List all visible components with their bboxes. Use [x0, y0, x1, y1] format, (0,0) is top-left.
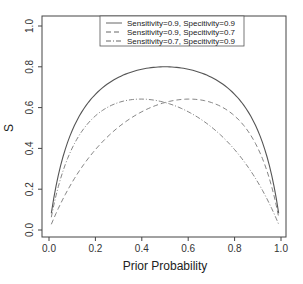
x-axis-title: Prior Probability — [123, 259, 208, 273]
x-tick-label: 0.6 — [181, 243, 195, 254]
series-line-3 — [51, 99, 278, 224]
y-tick-label: 0.4 — [24, 141, 35, 155]
x-tick-label: 0.0 — [42, 243, 56, 254]
legend-label: Sensitivity=0.9, Specitivity=0.7 — [127, 28, 236, 37]
legend: Sensitivity=0.9, Specitivity=0.9Sensitiv… — [100, 16, 244, 46]
x-tick-label: 0.8 — [228, 243, 242, 254]
y-tick-label: 0.2 — [24, 182, 35, 196]
legend-label: Sensitivity=0.7, Specitivity=0.9 — [127, 37, 236, 46]
x-tick-label: 1.0 — [274, 243, 288, 254]
y-tick-label: 0.6 — [24, 100, 35, 114]
x-tick-label: 0.4 — [135, 243, 149, 254]
y-axis-title: S — [2, 124, 16, 132]
x-axis: 0.00.20.40.60.81.0 — [42, 237, 288, 254]
series-layer — [51, 67, 278, 224]
line-chart: 0.00.20.40.60.81.0 0.00.20.40.60.81.0 Pr… — [0, 0, 303, 284]
series-line-1 — [51, 67, 278, 213]
y-tick-label: 0.8 — [24, 59, 35, 73]
legend-label: Sensitivity=0.9, Specitivity=0.9 — [127, 19, 236, 28]
y-tick-label: 1.0 — [24, 19, 35, 33]
y-tick-label: 0.0 — [24, 223, 35, 237]
y-axis: 0.00.20.40.60.81.0 — [24, 19, 42, 237]
plot-frame — [42, 16, 286, 237]
x-tick-label: 0.2 — [88, 243, 102, 254]
